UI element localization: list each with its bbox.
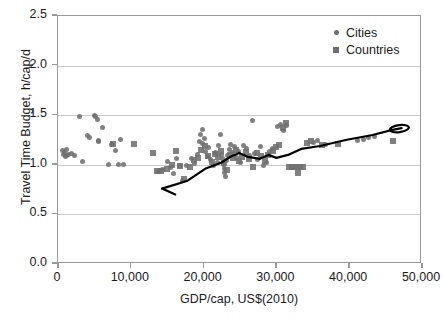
x-tick-label: 20,000 (163, 270, 243, 284)
legend-label-cities: Cities (346, 26, 377, 40)
y-tick-label: 1.5 (0, 106, 47, 120)
x-tick-label: 10,000 (90, 270, 170, 284)
square-marker-icon (330, 47, 342, 53)
y-axis-label: Travel Time Budget, h/cap/d (19, 22, 33, 232)
chart-legend: Cities Countries (330, 24, 400, 58)
x-axis-label: GDP/cap, US$(2010) (57, 292, 421, 306)
y-tick-label: 2.5 (0, 7, 47, 21)
x-tick-label: 40,000 (308, 270, 388, 284)
x-tick-label: 50,000 (381, 270, 445, 284)
x-tick-mark (348, 263, 350, 268)
x-tick-label: 30,000 (235, 270, 315, 284)
y-tick-label: 2.0 (0, 57, 47, 71)
legend-item-cities: Cities (330, 24, 400, 41)
legend-label-countries: Countries (346, 43, 400, 57)
y-tick-label: 0.0 (0, 255, 47, 269)
x-tick-mark (130, 263, 132, 268)
y-tick-label: 1.0 (0, 156, 47, 170)
trend-line-segment (162, 189, 175, 195)
x-tick-mark (203, 263, 205, 268)
y-tick-label: 0.5 (0, 205, 47, 219)
x-tick-mark (57, 263, 59, 268)
legend-item-countries: Countries (330, 41, 400, 58)
x-tick-mark (275, 263, 277, 268)
x-tick-label: 0 (17, 270, 97, 284)
trend-line-segment (162, 153, 260, 189)
trend-line-segment (260, 128, 402, 159)
x-tick-mark (421, 263, 423, 268)
circle-marker-icon (330, 30, 342, 35)
